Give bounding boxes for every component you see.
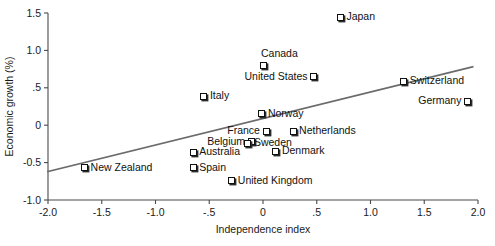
data-point-label: Germany — [418, 95, 461, 106]
data-point-marker — [190, 164, 197, 171]
y-tick-label: 1.5 — [26, 7, 41, 19]
data-point-marker — [290, 128, 297, 135]
data-point-marker — [310, 73, 317, 80]
data-point-marker — [464, 98, 471, 105]
data-point-marker — [263, 128, 270, 135]
data-point-marker — [244, 140, 251, 147]
data-point-label: Netherlands — [299, 125, 356, 136]
data-point-marker — [190, 149, 197, 156]
y-axis-title: Economic growth (%) — [3, 57, 15, 157]
x-tick-label: -.5 — [203, 206, 215, 218]
data-point-label: Spain — [199, 162, 226, 173]
x-axis-title: Independence index — [216, 223, 311, 235]
data-point-label: Denmark — [282, 145, 325, 156]
tick-labels-group: 1.51.0.50-0.5-1.0-2.0-1.5-1.0-.50.51.01.… — [23, 7, 486, 218]
x-tick-label: 0 — [260, 206, 266, 218]
x-tick-label: 1.0 — [363, 206, 378, 218]
x-tick-label: 2.0 — [471, 206, 486, 218]
data-point-marker — [81, 164, 88, 171]
data-point-label: Japan — [346, 11, 375, 22]
y-tick-label: .5 — [32, 81, 41, 93]
data-point-marker — [400, 78, 407, 85]
data-point-label: Italy — [210, 90, 229, 101]
y-tick-label: 0 — [35, 119, 41, 131]
x-tick-label: -1.5 — [93, 206, 111, 218]
x-tick-label: 1.5 — [417, 206, 432, 218]
scatter-plot-figure: 1.51.0.50-0.5-1.0-2.0-1.5-1.0-.50.51.01.… — [0, 0, 495, 246]
plot-canvas: 1.51.0.50-0.5-1.0-2.0-1.5-1.0-.50.51.01.… — [0, 0, 495, 246]
data-point-marker — [260, 62, 267, 69]
data-point-marker — [228, 177, 235, 184]
x-tick-label: .5 — [312, 206, 321, 218]
data-point-marker — [258, 110, 265, 117]
data-point-label: Australia — [199, 146, 240, 157]
data-point-label: Switzerland — [410, 75, 464, 86]
y-tick-label: 1.0 — [26, 44, 41, 56]
data-point-marker — [337, 14, 344, 21]
data-point-label: New Zealand — [91, 162, 153, 173]
x-tick-label: -1.0 — [146, 206, 164, 218]
data-point-label: Canada — [261, 48, 298, 59]
y-tick-label: -0.5 — [23, 156, 41, 168]
data-point-label: Norway — [268, 108, 304, 119]
x-tick-label: -2.0 — [39, 206, 57, 218]
data-point-label: United Kingdom — [238, 175, 313, 186]
y-tick-label: -1.0 — [23, 194, 41, 206]
data-point-marker — [272, 148, 279, 155]
data-point-marker — [200, 93, 207, 100]
data-point-label: United States — [245, 71, 308, 82]
